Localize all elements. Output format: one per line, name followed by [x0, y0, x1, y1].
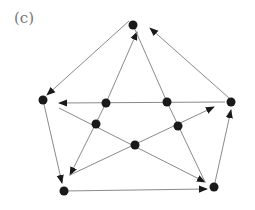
- petersen-graph-diagram: [0, 0, 255, 210]
- graph-edge: [214, 110, 231, 187]
- graph-edge: [70, 103, 106, 175]
- graph-edge: [150, 28, 229, 98]
- nodes-group: [39, 21, 236, 196]
- graph-edge: [47, 21, 129, 95]
- graph-node-inner-mid-right: [174, 122, 183, 131]
- graph-edge: [43, 100, 62, 183]
- graph-edge: [133, 25, 167, 102]
- graph-node-outer-bottom-left: [60, 187, 69, 196]
- graph-node-inner-bottom: [131, 141, 140, 150]
- graph-edge: [64, 189, 207, 191]
- graph-edge: [70, 107, 214, 175]
- edges-group: [43, 21, 231, 191]
- graph-edge: [59, 102, 225, 103]
- graph-node-outer-top: [129, 21, 138, 30]
- graph-node-inner-mid-left: [92, 120, 101, 129]
- graph-node-outer-right: [227, 98, 236, 107]
- graph-node-inner-upper-right: [163, 98, 172, 107]
- graph-edge: [106, 32, 137, 103]
- graph-node-outer-bottom-right: [210, 183, 219, 192]
- graph-node-outer-left: [39, 96, 48, 105]
- graph-node-inner-upper-left: [102, 99, 111, 108]
